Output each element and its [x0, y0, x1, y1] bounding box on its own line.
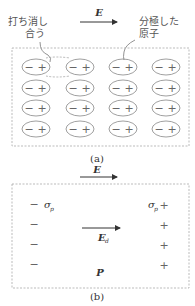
atom: −+ [66, 80, 94, 96]
svg-text:p: p [50, 205, 54, 213]
atom: −+ [109, 100, 137, 116]
svg-text:+: + [37, 82, 46, 95]
positive-surface-charges: + + + + [159, 199, 168, 272]
leader-line-cancel [40, 42, 51, 62]
atom: −+ [66, 59, 94, 75]
svg-text:−: − [111, 61, 120, 74]
label-cancel-line1: 打ち消し [8, 15, 48, 27]
pos-sigma-label: σ p [148, 199, 158, 213]
field-label-e-a: E [94, 7, 103, 18]
caption-b: (b) [90, 291, 104, 302]
atom: −+ [152, 80, 180, 96]
svg-text:−: − [24, 82, 33, 95]
svg-text:−: − [68, 123, 77, 136]
atom: −+ [66, 121, 94, 137]
label-cancel-line2: 合う [25, 27, 45, 39]
atom: −+ [66, 100, 94, 116]
atom-grid: −+ −+ −+ −+ −+ −+ −+ −+ −+ −+ −+ −+ −+ −… [22, 59, 180, 137]
dielectric-polarization-diagram: E 打ち消し 合う 分極した 原子 −+ −+ −+ −+ −+ −+ −+ −… [0, 0, 195, 306]
polarization-label: P [95, 267, 104, 278]
svg-text:+: + [37, 102, 46, 115]
svg-text:−: − [154, 82, 163, 95]
svg-text:p: p [154, 205, 158, 213]
svg-text:−: − [154, 61, 163, 74]
atom: −+ [22, 59, 50, 75]
atom: −+ [152, 59, 180, 75]
field-label-e-b: E [92, 164, 101, 175]
svg-text:+: + [81, 82, 90, 95]
svg-text:−: − [154, 102, 163, 115]
svg-text:+: + [167, 82, 176, 95]
figure-b: E − − − − σ p + + + + σ p E d [12, 164, 189, 302]
svg-text:+: + [159, 239, 168, 252]
svg-text:+: + [167, 123, 176, 136]
svg-text:+: + [81, 123, 90, 136]
figure-a: E 打ち消し 合う 分極した 原子 −+ −+ −+ −+ −+ −+ −+ −… [8, 7, 189, 164]
atom: −+ [109, 59, 137, 75]
field-arrow-e-a: E [80, 7, 117, 22]
svg-text:−: − [111, 102, 120, 115]
svg-text:−: − [68, 61, 77, 74]
caption-a: (a) [90, 153, 104, 164]
label-polarized-line2: 原子 [139, 28, 159, 39]
svg-text:−: − [68, 102, 77, 115]
atom: −+ [152, 100, 180, 116]
svg-text:−: − [24, 123, 33, 136]
svg-text:+: + [159, 199, 168, 212]
svg-text:+: + [159, 259, 168, 272]
atom: −+ [22, 80, 50, 96]
svg-text:+: + [124, 82, 133, 95]
atom: −+ [22, 121, 50, 137]
svg-text:+: + [167, 102, 176, 115]
neg-sigma-label: σ p [44, 199, 54, 213]
svg-text:−: − [24, 102, 33, 115]
svg-text:−: − [154, 123, 163, 136]
atom: −+ [109, 121, 137, 137]
svg-text:+: + [37, 123, 46, 136]
svg-text:−: − [111, 82, 120, 95]
svg-text:+: + [81, 61, 90, 74]
svg-text:+: + [37, 61, 46, 74]
atom: −+ [152, 121, 180, 137]
svg-text:−: − [24, 61, 33, 74]
svg-text:−: − [29, 258, 38, 271]
svg-text:+: + [124, 102, 133, 115]
atom: −+ [109, 80, 137, 96]
svg-text:−: − [68, 82, 77, 95]
field-arrow-e-b: E [80, 164, 117, 177]
label-polarized-line1: 分極した [139, 15, 179, 27]
depolarizing-field-arrow: E d [82, 228, 120, 244]
svg-text:−: − [29, 238, 38, 251]
svg-text:+: + [81, 102, 90, 115]
svg-text:−: − [111, 123, 120, 136]
svg-text:+: + [167, 61, 176, 74]
atom: −+ [22, 100, 50, 116]
leader-line-polarized [124, 40, 136, 60]
svg-text:+: + [124, 123, 133, 136]
svg-text:d: d [105, 237, 109, 244]
svg-text:−: − [29, 198, 38, 211]
svg-text:+: + [124, 61, 133, 74]
svg-text:+: + [159, 219, 168, 232]
negative-surface-charges: − − − − [29, 198, 38, 271]
svg-text:−: − [29, 218, 38, 231]
